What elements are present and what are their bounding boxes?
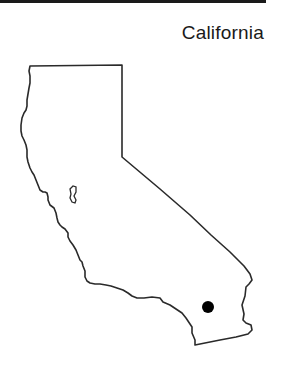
california-outline	[21, 65, 252, 345]
san-francisco-bay	[70, 186, 76, 203]
california-map	[0, 0, 289, 389]
location-marker-dot	[202, 301, 214, 313]
